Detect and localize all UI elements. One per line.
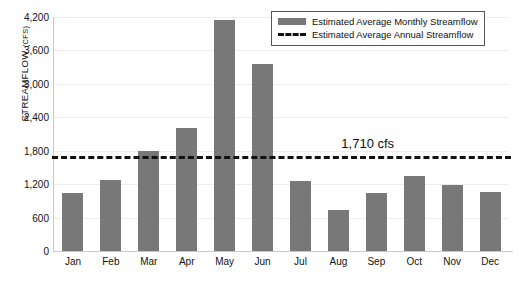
y-axis-tick-label: 1,200	[5, 179, 49, 190]
bar-slot	[54, 17, 92, 251]
legend-item-annual-label: Estimated Average Annual Streamflow	[312, 29, 473, 40]
y-axis-tick-label: 3,000	[5, 78, 49, 89]
bar-mar	[138, 151, 159, 251]
x-axis-tick-label: Nov	[433, 256, 471, 267]
bar-slot	[471, 17, 509, 251]
bar-slot	[206, 17, 244, 251]
y-axis-tick-labels: 06001,2001,8002,4003,0003,6004,200	[0, 0, 49, 286]
bar-nov	[442, 185, 463, 251]
average-annual-streamflow-label: 1,710 cfs	[341, 136, 394, 151]
bar-dec	[480, 192, 501, 251]
bar-oct	[404, 176, 425, 251]
x-axis-tick-label: Sep	[357, 256, 395, 267]
bar-series	[54, 17, 509, 251]
x-axis-tick-label: Mar	[130, 256, 168, 267]
bar-sep	[366, 193, 387, 251]
y-axis-tick-label: 3,600	[5, 45, 49, 56]
streamflow-bar-chart: Streamflow (cfs) 06001,2001,8002,4003,00…	[0, 0, 519, 286]
x-axis-line	[53, 251, 513, 252]
bar-apr	[176, 128, 197, 251]
y-axis-tick-label: 0	[5, 246, 49, 257]
bar-slot	[282, 17, 320, 251]
x-axis-tick-label: Feb	[92, 256, 130, 267]
legend-item-monthly: Estimated Average Monthly Streamflow	[278, 15, 478, 28]
x-axis-tick-label: Aug	[319, 256, 357, 267]
y-axis-tick-label: 600	[5, 212, 49, 223]
chart-legend: Estimated Average Monthly Streamflow Est…	[271, 11, 485, 46]
bar-slot	[395, 17, 433, 251]
bar-slot	[433, 17, 471, 251]
y-axis-tick-label: 2,400	[5, 112, 49, 123]
x-axis-tick-label: Jul	[282, 256, 320, 267]
bar-slot	[319, 17, 357, 251]
x-axis-tick-label: Jan	[54, 256, 92, 267]
x-axis-tick-label: Apr	[168, 256, 206, 267]
bar-jan	[62, 193, 83, 251]
bar-aug	[328, 210, 349, 251]
average-annual-streamflow-line	[52, 156, 511, 159]
bar-slot	[92, 17, 130, 251]
bar-swatch-icon	[278, 18, 306, 25]
legend-item-annual: Estimated Average Annual Streamflow	[278, 28, 478, 41]
x-axis-tick-label: Jun	[244, 256, 282, 267]
x-axis-tick-labels: JanFebMarAprMayJunJulAugSepOctNovDec	[54, 256, 509, 267]
y-axis-tick-label: 1,800	[5, 145, 49, 156]
x-axis-tick-label: May	[206, 256, 244, 267]
dashed-line-swatch-icon	[278, 33, 306, 36]
bar-jul	[290, 181, 311, 251]
bar-slot	[168, 17, 206, 251]
bar-feb	[100, 180, 121, 251]
plot-area: 1,710 cfs	[54, 17, 509, 251]
bar-slot	[244, 17, 282, 251]
x-axis-tick-label: Oct	[395, 256, 433, 267]
bar-slot	[130, 17, 168, 251]
y-axis-tick-label: 4,200	[5, 12, 49, 23]
bar-may	[214, 20, 235, 251]
bar-slot	[357, 17, 395, 251]
legend-item-monthly-label: Estimated Average Monthly Streamflow	[312, 16, 478, 27]
x-axis-tick-label: Dec	[471, 256, 509, 267]
